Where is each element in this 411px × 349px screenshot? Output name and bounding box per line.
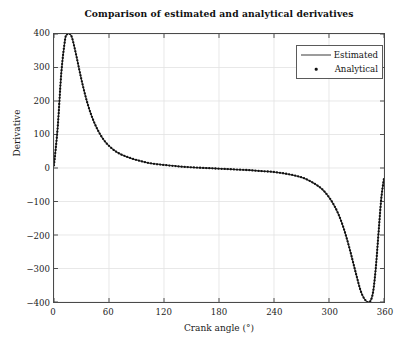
legend[interactable]: Estimated Analytical <box>296 45 383 79</box>
chart-title: Comparison of estimated and analytical d… <box>53 8 385 19</box>
x-tick-label: 0 <box>33 307 73 317</box>
legend-dot-swatch-icon <box>299 62 333 76</box>
x-tick-label: 120 <box>144 307 184 317</box>
legend-label-analytical: Analytical <box>333 64 380 74</box>
y-tick-label: −200 <box>4 231 50 241</box>
y-axis-tick-labels: 4003002001000−100−200−300−400 <box>0 33 50 303</box>
y-tick-label: 400 <box>4 28 50 38</box>
x-tick-label: 180 <box>199 307 239 317</box>
y-tick-label: −100 <box>4 197 50 207</box>
y-tick-label: 0 <box>4 163 50 173</box>
legend-item-analytical[interactable]: Analytical <box>299 62 380 76</box>
y-tick-label: 300 <box>4 62 50 72</box>
y-tick-label: 200 <box>4 96 50 106</box>
x-axis-tick-labels: 060120180240300360 <box>53 307 385 321</box>
figure-canvas: Comparison of estimated and analytical d… <box>0 0 411 349</box>
x-tick-label: 360 <box>365 307 405 317</box>
x-axis-label: Crank angle (°) <box>53 323 385 333</box>
legend-label-estimated: Estimated <box>333 50 380 60</box>
legend-item-estimated[interactable]: Estimated <box>299 48 380 62</box>
plot-area: Estimated Analytical <box>53 33 385 303</box>
x-tick-label: 60 <box>88 307 128 317</box>
y-tick-label: 100 <box>4 129 50 139</box>
x-tick-label: 300 <box>310 307 350 317</box>
x-tick-label: 240 <box>254 307 294 317</box>
y-tick-label: −300 <box>4 264 50 274</box>
legend-line-swatch-icon <box>299 48 333 62</box>
